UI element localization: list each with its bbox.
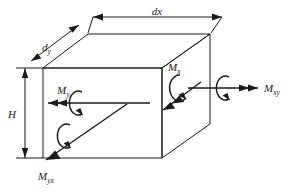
dimension-dy: dy: [31, 25, 79, 61]
h-arrowhead-top: [22, 68, 28, 78]
dimension-h: H: [7, 68, 43, 158]
h-label: H: [7, 108, 17, 120]
mxy-arrowhead-outer: [248, 84, 258, 91]
my-arrowhead-outer: [48, 99, 58, 106]
moment-myx: Myx: [37, 104, 127, 185]
dx-leader-left: [88, 17, 93, 33]
h-arrowhead-bottom: [22, 148, 28, 158]
mxy-label: Mxy: [263, 82, 281, 97]
dy-label: dy: [42, 41, 52, 56]
my-label: My: [56, 84, 70, 99]
right-face-outline: [162, 34, 210, 158]
plate-element-moments-figure: dx dy H My: [0, 0, 300, 192]
my-arrowhead-inner: [57, 99, 67, 106]
dx-label: dx: [152, 5, 163, 17]
moment-mx: Mx: [163, 61, 201, 110]
myx-label: Myx: [37, 170, 55, 185]
mxy-arrowhead-inner: [239, 84, 249, 91]
top-face-outline: [43, 34, 210, 68]
mx-label: Mx: [167, 61, 181, 76]
dx-arrowhead-left: [93, 14, 103, 21]
dimension-dx: dx: [88, 5, 222, 33]
moment-mxy: Mxy: [188, 76, 281, 101]
moment-my: My: [48, 84, 150, 116]
